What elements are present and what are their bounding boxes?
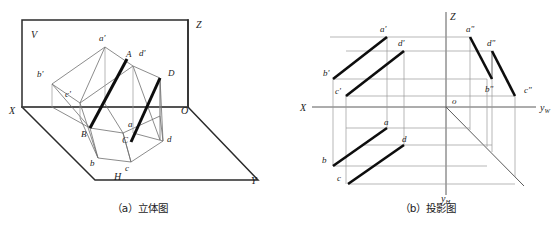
hproj-quad-a <box>90 128 131 162</box>
figure-b-group: Z X o yW yH a' a" d' d" b' b" c' c" a d <box>299 11 550 214</box>
label-point-c-prime-a: c' <box>65 89 72 99</box>
segment-ab-top-view <box>333 128 387 166</box>
label-axis-Z-b: Z <box>450 11 456 22</box>
label-axis-yW-b: yW <box>539 102 550 114</box>
label-origin-o-b: o <box>452 96 457 106</box>
h-plane-outline <box>22 107 258 180</box>
label-point-d-prime-a: d' <box>139 48 147 58</box>
label-V-plane: V <box>31 29 39 40</box>
segment-AB-pictorial <box>90 59 127 128</box>
label-point-d-a: d <box>167 134 172 144</box>
label-axis-Z-a: Z <box>196 19 202 30</box>
label-point-C-a: C <box>122 135 129 145</box>
label-point-a-b: a <box>384 117 389 127</box>
label-point-b-b: b <box>322 155 327 165</box>
segment-CD-pictorial <box>131 78 160 142</box>
label-point-a-prime-a: a' <box>99 33 107 43</box>
label-point-B-a: B <box>81 129 87 139</box>
caption-figure-a: （a）立体图 <box>112 202 168 214</box>
label-point-D-a: D <box>167 68 175 78</box>
label-point-a-double-b: a" <box>466 24 475 34</box>
label-axis-X-b: X <box>299 102 307 113</box>
label-point-b-double-b: b" <box>485 84 494 94</box>
label-point-d-prime-b: d' <box>398 38 406 48</box>
label-point-c-b: c <box>337 173 341 183</box>
label-point-b-a: b <box>90 158 95 168</box>
label-point-c-prime-b: c' <box>335 86 342 96</box>
label-point-b-prime-b: b' <box>323 68 331 78</box>
label-H-plane: H <box>113 171 122 182</box>
label-point-d-b: d <box>402 134 407 144</box>
label-point-A-a: A <box>125 49 132 59</box>
label-point-a-a: a <box>128 119 133 129</box>
axis-45-b <box>446 107 524 186</box>
figure-a-group: V H Z X O Y a' A d' b' c' D B a C d b c … <box>8 19 258 214</box>
segment-ab-front-view <box>333 37 387 79</box>
figure-canvas: V H Z X O Y a' A d' b' c' D B a C d b c … <box>0 0 560 226</box>
label-point-c-a: c <box>125 163 129 173</box>
caption-figure-b: （b）投影图 <box>400 202 457 214</box>
figure-b-labels: Z X o yW yH a' a" d' d" b' b" c' c" a d <box>299 11 550 205</box>
label-origin-O-a: O <box>181 105 188 116</box>
label-point-b-prime-a: b' <box>37 69 45 79</box>
depth-a <box>105 104 123 133</box>
label-axis-X-a: X <box>8 105 16 116</box>
segment-cd-front-view <box>346 51 404 96</box>
depth-b <box>52 107 90 128</box>
label-point-a-prime-b: a' <box>380 24 388 34</box>
segment-cd-side-view <box>492 51 515 96</box>
label-point-c-double-b: c" <box>524 85 532 95</box>
frame-line-2 <box>52 84 90 128</box>
label-point-d-double-b: d" <box>487 38 496 48</box>
